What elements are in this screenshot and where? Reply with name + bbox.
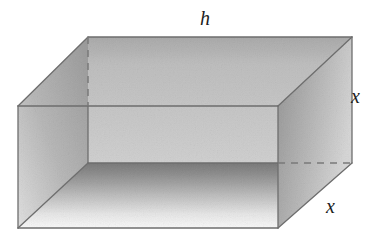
dimension-label-x-height: x <box>351 86 360 106</box>
figure-container: h x x <box>0 0 375 238</box>
box-diagram-svg <box>0 0 375 238</box>
dimension-label-h: h <box>200 8 210 28</box>
dimension-label-x-depth: x <box>326 196 335 216</box>
